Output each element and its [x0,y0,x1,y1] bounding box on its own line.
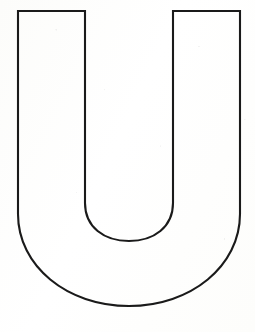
letter-u-path [18,11,240,306]
coloring-page-canvas: Large block capital letter U drawn as a … [0,0,255,332]
letter-u-outline: Large block capital letter U drawn as a … [0,0,255,332]
